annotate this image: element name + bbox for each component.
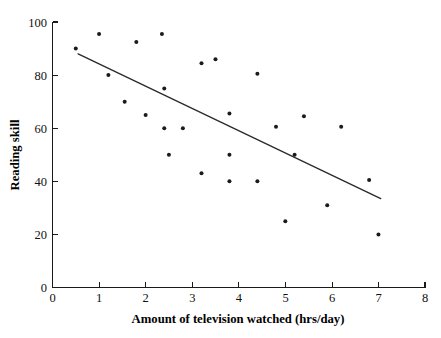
data-point	[255, 72, 259, 76]
y-axis-ticks	[53, 22, 59, 288]
data-points-group	[74, 32, 381, 236]
y-ticklabel-80: 80	[35, 69, 48, 83]
x-ticklabel-7: 7	[376, 291, 382, 305]
y-ticklabel-0: 0	[41, 281, 47, 295]
data-point	[376, 232, 380, 236]
x-ticklabel-1: 1	[96, 291, 102, 305]
x-ticklabel-2: 2	[143, 291, 149, 305]
x-ticklabel-3: 3	[189, 291, 195, 305]
data-point	[302, 114, 306, 118]
scatter-plot-figure: 0 20 40 60 80 100 0 1 2 3 4 5 6	[0, 0, 441, 338]
y-ticklabel-40: 40	[35, 175, 48, 189]
chart-svg: 0 20 40 60 80 100 0 1 2 3 4 5 6	[0, 0, 441, 338]
y-axis-tick-labels: 0 20 40 60 80 100	[28, 16, 47, 295]
data-point	[200, 61, 204, 65]
data-point	[274, 125, 278, 129]
data-point	[144, 113, 148, 117]
x-ticklabel-8: 8	[422, 291, 428, 305]
x-ticklabel-6: 6	[329, 291, 335, 305]
data-point	[162, 86, 166, 90]
data-point	[293, 153, 297, 157]
data-point	[162, 126, 166, 130]
data-point	[325, 203, 329, 207]
data-point	[367, 178, 371, 182]
x-axis-tick-labels: 0 1 2 3 4 5 6 7 8	[49, 291, 428, 305]
data-point	[181, 126, 185, 130]
x-ticklabel-4: 4	[236, 291, 243, 305]
data-point	[213, 57, 217, 61]
x-axis-title: Amount of television watched (hrs/day)	[132, 312, 345, 326]
data-point	[167, 153, 171, 157]
y-ticklabel-60: 60	[35, 122, 48, 136]
x-ticklabel-0: 0	[49, 291, 55, 305]
data-point	[200, 171, 204, 175]
data-point	[339, 125, 343, 129]
data-point	[106, 73, 110, 77]
data-point	[74, 47, 78, 51]
y-axis-title: Reading skill	[8, 119, 22, 190]
data-point	[134, 40, 138, 44]
data-point	[227, 179, 231, 183]
data-point	[283, 219, 287, 223]
data-point	[123, 100, 127, 104]
data-point	[255, 179, 259, 183]
data-point	[227, 112, 231, 116]
x-axis-ticks	[53, 282, 426, 288]
data-point	[160, 32, 164, 36]
y-ticklabel-20: 20	[35, 228, 48, 242]
data-point	[227, 153, 231, 157]
data-point	[97, 32, 101, 36]
y-ticklabel-100: 100	[28, 16, 47, 30]
trend-line	[78, 54, 381, 199]
x-ticklabel-5: 5	[282, 291, 288, 305]
